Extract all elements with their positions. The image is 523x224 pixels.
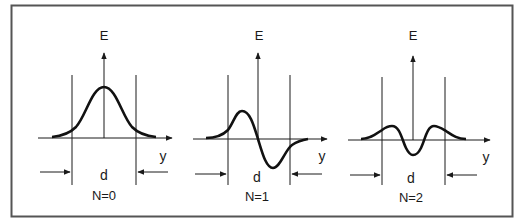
y-axis-label: y <box>160 148 167 164</box>
mode-label: N=1 <box>245 189 269 204</box>
width-label: d <box>407 170 415 186</box>
panel-n0: E y d N=0 <box>38 28 172 203</box>
panel-n2: E y d N=2 <box>348 28 490 205</box>
mode-label: N=0 <box>92 188 116 203</box>
e-axis-label: E <box>255 28 264 43</box>
waveguide-modes-diagram: E y d N=0 E y d N=1 E y d N=2 <box>0 0 523 224</box>
e-axis-label: E <box>100 28 109 43</box>
width-label: d <box>253 169 261 185</box>
e-axis-label: E <box>409 28 418 43</box>
width-label: d <box>100 167 108 183</box>
panel-n1: E y d N=1 <box>193 28 327 204</box>
y-axis-label: y <box>319 148 326 164</box>
y-axis-label: y <box>483 149 490 165</box>
mode-label: N=2 <box>399 190 423 205</box>
